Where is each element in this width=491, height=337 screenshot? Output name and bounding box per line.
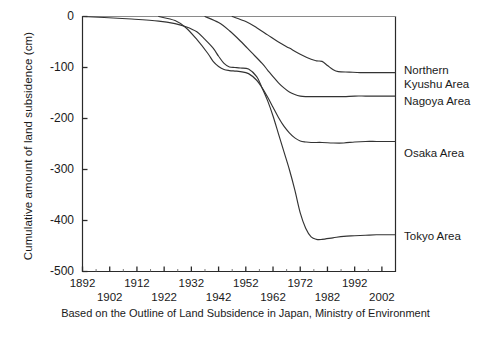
x-tick-label: 1982	[304, 291, 350, 303]
x-tick-label: 1902	[87, 291, 133, 303]
y-tick-label: 0	[22, 9, 74, 23]
x-tick-label: 1942	[196, 291, 242, 303]
series-line-nagoya-area	[205, 17, 396, 97]
x-tick-label: 1962	[250, 291, 296, 303]
x-tick-label: 2002	[359, 291, 405, 303]
y-tick-label: -200	[22, 111, 74, 125]
x-tick-label: 1912	[114, 277, 160, 289]
y-axis-title: Cumulative amount of land subsidence (cm…	[22, 6, 34, 286]
land-subsidence-chart: Cumulative amount of land subsidence (cm…	[0, 0, 491, 337]
data-curves	[83, 17, 396, 240]
x-tick-label: 1922	[141, 291, 187, 303]
series-label-tokyo-area: Tokyo Area	[404, 230, 461, 244]
series-line-tokyo-area	[83, 17, 396, 240]
series-label-nagoya-area: Nagoya Area	[404, 95, 471, 109]
series-line-osaka-area	[159, 17, 396, 144]
chart-caption: Based on the Outline of Land Subsidence …	[0, 307, 491, 319]
tick-marks	[83, 17, 382, 272]
y-tick-label: -400	[22, 213, 74, 227]
y-tick-label: -300	[22, 162, 74, 176]
x-tick-label: 1892	[60, 277, 106, 289]
x-tick-label: 1932	[168, 277, 214, 289]
x-tick-label: 1972	[277, 277, 323, 289]
x-tick-label: 1952	[223, 277, 269, 289]
y-tick-label: -100	[22, 60, 74, 74]
axis-frame	[82, 16, 396, 272]
x-tick-label: 1992	[332, 277, 378, 289]
series-label-northern-kyushu-area: Northern Kyushu Area	[404, 64, 469, 91]
y-tick-label: -500	[22, 264, 74, 278]
series-line-northern-kyushu-area	[232, 17, 395, 73]
series-label-osaka-area: Osaka Area	[404, 147, 464, 161]
